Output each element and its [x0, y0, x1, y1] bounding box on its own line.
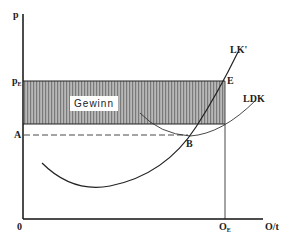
tick-label-main: O	[219, 221, 227, 232]
x-axis-label: O/t	[265, 222, 279, 232]
y-axis-label: p	[13, 10, 19, 20]
tick-label-a: A	[14, 130, 21, 140]
point-label-b: B	[186, 139, 193, 149]
tick-label-price-equilibrium: pE	[12, 76, 22, 87]
curve-label-ldk: LDK	[243, 94, 265, 104]
tick-label-main: p	[12, 75, 18, 86]
profit-area	[24, 81, 225, 124]
tick-label-quantity-equilibrium: OE	[219, 222, 231, 233]
profit-label: Gewinn	[70, 96, 118, 111]
point-label-e: E	[227, 76, 234, 86]
origin-label: 0	[17, 222, 22, 232]
tick-label-subscript: E	[18, 81, 22, 87]
profit-diagram	[0, 0, 290, 243]
tick-label-subscript: E	[227, 227, 231, 233]
curve-label-lk: LK'	[230, 45, 247, 55]
